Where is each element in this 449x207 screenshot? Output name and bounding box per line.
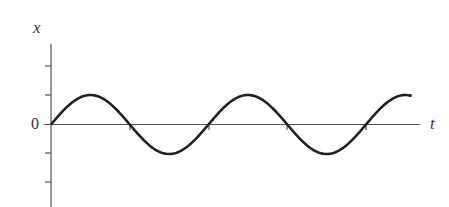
sine-plot	[0, 0, 449, 207]
origin-label: 0	[31, 115, 39, 133]
y-axis	[45, 44, 51, 207]
x-axis-label: t	[430, 114, 435, 134]
y-axis-label: x	[33, 18, 41, 38]
